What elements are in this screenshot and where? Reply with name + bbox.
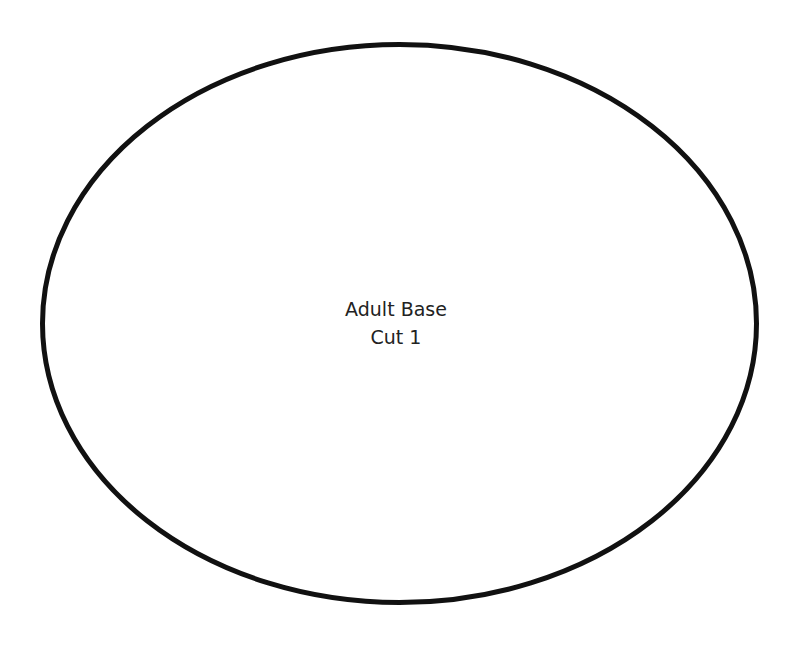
pattern-title: Adult Base bbox=[0, 295, 792, 323]
pattern-cut-count: Cut 1 bbox=[0, 323, 792, 351]
